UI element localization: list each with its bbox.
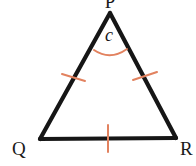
- triangle-diagram-svg: c P Q R: [0, 0, 196, 166]
- figure-background: [0, 0, 196, 166]
- geometry-figure-container: c P Q R: [0, 0, 196, 166]
- vertex-label-r: R: [180, 138, 193, 159]
- vertex-label-q: Q: [12, 138, 26, 159]
- angle-label-c: c: [105, 25, 113, 45]
- vertex-label-p: P: [105, 0, 116, 12]
